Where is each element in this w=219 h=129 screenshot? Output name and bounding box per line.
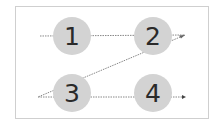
step-number: 4 bbox=[145, 81, 161, 106]
turn-arrow-icon bbox=[179, 35, 185, 39]
step-node-3: 3 bbox=[53, 74, 91, 112]
step-number: 2 bbox=[145, 24, 161, 49]
step-node-4: 4 bbox=[134, 74, 172, 112]
step-number: 1 bbox=[64, 24, 80, 49]
step-node-2: 2 bbox=[134, 17, 172, 55]
flow-lines bbox=[0, 0, 219, 129]
step-number: 3 bbox=[64, 81, 80, 106]
step-node-1: 1 bbox=[53, 17, 91, 55]
end-arrow-icon bbox=[182, 95, 186, 99]
